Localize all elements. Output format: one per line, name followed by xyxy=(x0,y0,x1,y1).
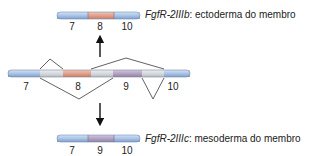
top-description: ectoderma do membro xyxy=(195,9,296,20)
bottom-exon-9 xyxy=(88,135,114,142)
bottom-description: mesoderma do membro xyxy=(194,133,300,144)
top-exon-labels: 7 8 10 xyxy=(69,21,133,32)
bottom-exon-label-9: 9 xyxy=(97,145,103,156)
bottom-exon-label-7: 7 xyxy=(69,145,75,156)
pre-label-9: 9 xyxy=(123,81,129,92)
bottom-exon-10 xyxy=(114,135,140,142)
bottom-exon-labels: 7 9 10 xyxy=(69,145,133,156)
top-isoform-bar xyxy=(57,12,140,19)
splice-paths xyxy=(40,58,164,99)
bottom-exon-label-10: 10 xyxy=(121,145,133,156)
pre-exon-10 xyxy=(164,70,190,77)
pre-exon-9 xyxy=(113,70,142,77)
top-exon-label-7: 7 xyxy=(69,21,75,32)
upper-splice-2 xyxy=(91,58,164,69)
bottom-gene-name: FgfR-2IIIc xyxy=(145,133,189,144)
bottom-isoform-caption: FgfR-2IIIc: mesoderma do membro xyxy=(145,133,301,145)
lower-splice-2 xyxy=(142,78,164,99)
top-exon-label-8: 8 xyxy=(97,21,103,32)
upper-splice-1 xyxy=(40,59,63,69)
pre-exon-7 xyxy=(8,70,40,77)
bottom-isoform-bar xyxy=(57,135,140,142)
top-exon-10 xyxy=(114,12,140,19)
top-exon-8 xyxy=(88,12,114,19)
top-gene-name: FgfR-2IIIb xyxy=(145,9,189,20)
pre-exon-8 xyxy=(63,70,91,77)
top-isoform-caption: FgfR-2IIIb: ectoderma do membro xyxy=(145,9,296,21)
pre-label-8: 8 xyxy=(75,81,81,92)
pre-mrna-bar xyxy=(8,70,190,77)
bottom-exon-7 xyxy=(57,135,88,142)
pre-intron-1 xyxy=(40,70,63,77)
pre-label-10: 10 xyxy=(167,81,179,92)
top-exon-7 xyxy=(57,12,88,19)
pre-intron-3 xyxy=(142,70,164,77)
pre-intron-2 xyxy=(91,70,113,77)
pre-mrna-labels: 7 8 9 10 xyxy=(23,81,179,92)
top-exon-label-10: 10 xyxy=(121,21,133,32)
pre-label-7: 7 xyxy=(23,81,29,92)
